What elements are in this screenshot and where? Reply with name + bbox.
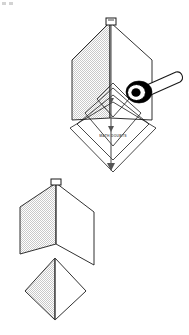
geometry-figure: MATH DOUBTS xyxy=(0,0,189,335)
corner-mark-dash-2 xyxy=(9,2,13,5)
corner-mark-dash-1 xyxy=(2,2,6,5)
bottom-left-shaded-half xyxy=(25,258,55,320)
watermark-text: MATH DOUBTS xyxy=(99,134,127,138)
page-corner-marks xyxy=(2,2,16,6)
right-plain-panel xyxy=(110,22,152,120)
apex-clip xyxy=(106,18,116,25)
lower-apex-clip xyxy=(51,179,61,185)
left-shaded-panel xyxy=(72,22,110,120)
pin-centre xyxy=(131,88,140,97)
bottom-diamond xyxy=(25,258,86,320)
lower-right-plain-panel xyxy=(56,183,94,265)
diagram-canvas: MATH DOUBTS xyxy=(0,0,189,335)
bottom-right-plain-half xyxy=(55,258,86,320)
lower-chevron xyxy=(20,179,94,265)
lower-left-shaded-panel xyxy=(20,183,56,254)
center-arrow-head-2 xyxy=(108,126,114,132)
